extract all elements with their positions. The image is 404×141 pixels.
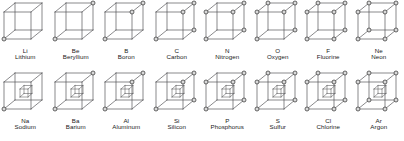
electron-node-bfl: [103, 107, 107, 111]
cube-wireframe: [156, 73, 194, 109]
element-cell-p[interactable]: PPhosphorus: [202, 70, 253, 140]
cube-wireframe: [307, 3, 345, 39]
cube-edge: [374, 86, 378, 90]
cube-diagram-na: [0, 70, 51, 118]
element-cell-b[interactable]: BBoron: [101, 0, 152, 70]
cube-edge: [82, 30, 93, 39]
element-cell-f[interactable]: FFluorine: [303, 0, 354, 70]
element-cell-ba[interactable]: BaBarium: [51, 70, 102, 140]
element-label-group: BBoron: [101, 48, 152, 61]
cube-edge: [222, 86, 226, 90]
cube-edge: [31, 100, 42, 109]
element-name: Nitrogen: [202, 54, 253, 60]
cube-diagram-s: [253, 70, 304, 118]
element-cell-al[interactable]: AlAluminum: [101, 70, 152, 140]
electron-node-bbr: [242, 98, 246, 102]
cube-edge: [20, 94, 24, 98]
cube-edge: [129, 94, 133, 98]
element-cell-ar[interactable]: ArArgon: [354, 70, 404, 140]
electron-node-tbl: [316, 1, 320, 5]
electron-node-tfr: [332, 80, 336, 84]
electron-node-tfr: [383, 80, 387, 84]
electron-node-bbr: [293, 98, 297, 102]
cube-edge: [82, 100, 93, 109]
cube-edge: [4, 73, 15, 82]
cube-wireframe: [55, 73, 93, 109]
electron-node-tbr: [91, 71, 95, 75]
electron-node-tbr: [394, 71, 398, 75]
electron-nodes: [305, 71, 347, 111]
cube-edge: [230, 94, 234, 98]
cube-diagram-c: [152, 0, 203, 48]
cube-edge: [31, 3, 42, 12]
electron-node-bbr: [192, 28, 196, 32]
electron-node-tfr: [231, 10, 235, 14]
electron-node-tbr: [293, 1, 297, 5]
electron-node-tfr: [282, 80, 286, 84]
electron-node-tfr: [181, 80, 185, 84]
electron-node-bbr: [394, 28, 398, 32]
cube-edge: [172, 86, 176, 90]
element-label-group: BeBeryllium: [51, 48, 102, 61]
element-row-period-3: NaSodiumBaBariumAlAluminumSiSiliconPPhos…: [0, 70, 404, 140]
electron-node-tfl: [305, 10, 309, 14]
cube-edge: [105, 3, 116, 12]
element-name: Aluminum: [101, 124, 152, 130]
element-cell-cl[interactable]: ClChlorine: [303, 70, 354, 140]
element-name: Silicon: [152, 124, 203, 130]
element-cell-o[interactable]: OOxygen: [253, 0, 304, 70]
electron-nodes: [356, 1, 398, 41]
cube-diagram-ne: [354, 0, 404, 48]
cube-diagram-o: [253, 0, 304, 48]
electron-node-bfl: [255, 107, 259, 111]
cube-edge: [121, 86, 125, 90]
element-label-group: FFluorine: [303, 48, 354, 61]
cube-edge: [79, 86, 83, 90]
inner-cube: [71, 86, 83, 98]
inner-cube: [374, 86, 386, 98]
electron-node-bbr: [293, 28, 297, 32]
inner-cube: [323, 86, 335, 98]
electron-node-tfr: [130, 10, 134, 14]
electron-node-tbl: [367, 71, 371, 75]
cube-edge: [323, 86, 327, 90]
element-label-group: NNitrogen: [202, 48, 253, 61]
electron-node-tfr: [181, 10, 185, 14]
electron-node-tfr: [231, 80, 235, 84]
electron-node-bfr: [383, 107, 387, 111]
cube-wireframe: [206, 73, 244, 109]
cube-edge: [121, 94, 125, 98]
electron-node-bbl: [367, 28, 371, 32]
element-name: Carbon: [152, 54, 203, 60]
element-cell-n[interactable]: NNitrogen: [202, 0, 253, 70]
element-cell-na[interactable]: NaSodium: [0, 70, 51, 140]
element-name: Sodium: [0, 124, 51, 130]
electron-node-bfl: [204, 107, 208, 111]
cube-edge: [71, 94, 75, 98]
element-cell-c[interactable]: CCarbon: [152, 0, 203, 70]
element-label-group: LiLithium: [0, 48, 51, 61]
element-cell-li[interactable]: LiLithium: [0, 0, 51, 70]
cube-wireframe: [55, 3, 93, 39]
element-cell-be[interactable]: BeBeryllium: [51, 0, 102, 70]
element-label-group: NaSodium: [0, 118, 51, 131]
cube-edge: [20, 86, 24, 90]
electron-node-bfl: [2, 37, 6, 41]
electron-node-bbr: [242, 28, 246, 32]
element-cell-si[interactable]: SiSilicon: [152, 70, 203, 140]
electron-node-tbl: [266, 1, 270, 5]
cube-diagram-b: [101, 0, 152, 48]
electron-node-bbl: [367, 98, 371, 102]
cube-wireframe: [358, 73, 396, 109]
element-cell-ne[interactable]: NeNeon: [354, 0, 404, 70]
element-cell-s[interactable]: SSulfur: [253, 70, 304, 140]
cube-edge: [156, 73, 167, 82]
cube-diagram-f: [303, 0, 354, 48]
cube-edge: [71, 86, 75, 90]
electron-node-bbr: [192, 98, 196, 102]
electron-nodes: [356, 71, 398, 111]
cube-edge: [129, 86, 133, 90]
cube-diagram-si: [152, 70, 203, 118]
cube-edge: [55, 73, 66, 82]
element-label-group: OOxygen: [253, 48, 304, 61]
